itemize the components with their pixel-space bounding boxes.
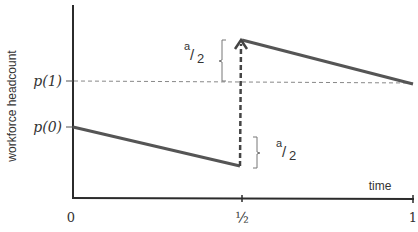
headcount-diagram: workforce headcount p(1) p(0) 0 ½ 1 time… [0,0,418,232]
lower-brace [253,137,260,168]
x-axis-label: time [369,179,392,193]
p0-label: p(0) [33,119,62,135]
x-tick-label-1: 1 [409,210,417,225]
upper-brace [219,40,226,81]
svg-text:/: / [282,143,287,160]
y-axis-label: workforce headcount [5,50,19,163]
svg-text:/: / [190,46,195,63]
svg-text:2: 2 [289,148,296,163]
decline-segment-second-half [242,40,413,84]
p1-reference-line [74,81,413,83]
x-axis [72,198,414,199]
lower-a-half-label: a / 2 [276,137,296,163]
x-tick-label-0: 0 [67,210,75,225]
p1-label: p(1) [33,73,62,89]
jump-arrow-shaft [240,44,241,166]
svg-text:2: 2 [197,51,204,66]
x-tick-label-half: ½ [235,210,249,226]
decline-segment-first-half [73,127,240,166]
upper-a-half-label: a / 2 [184,40,204,66]
